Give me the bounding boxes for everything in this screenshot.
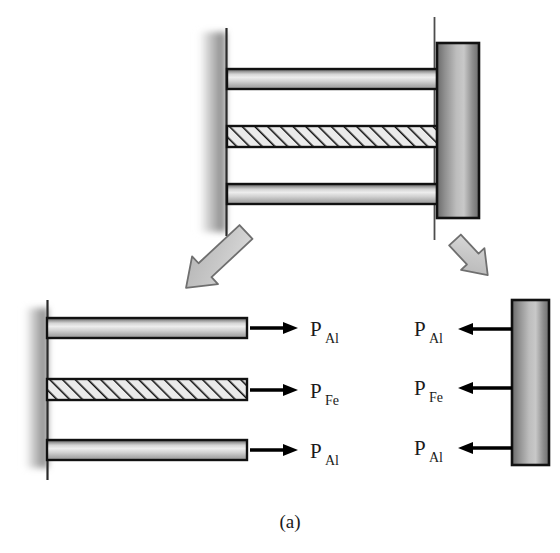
support-shadow <box>196 32 226 232</box>
bar-top-body <box>227 69 439 89</box>
fb-plate-force-subscript-bottom: Al <box>429 450 443 465</box>
figure-caption: (a) <box>279 511 300 533</box>
fb-bar-bottom-body <box>47 440 247 460</box>
fb-plate-force-label-top: P <box>414 317 426 341</box>
bar-bottom-body <box>227 184 439 204</box>
fb-fixed-support <box>22 300 48 480</box>
fb-force-subscript-top: Al <box>325 331 339 346</box>
bar-middle-body <box>227 126 439 147</box>
figure-container: P Al P Fe P Al P Al <box>0 0 560 553</box>
fb-plate-force-subscript-top: Al <box>429 331 443 346</box>
fb-plate-force-subscript-middle: Fe <box>429 390 443 405</box>
fb-end-plate <box>512 300 549 465</box>
fb-force-subscript-bottom: Al <box>325 453 339 468</box>
assembly-end-plate <box>437 43 479 218</box>
assembly-bar-bottom <box>227 184 439 204</box>
composite-bar-diagram: P Al P Fe P Al P Al <box>0 0 560 553</box>
assembly-bar-middle <box>227 126 439 147</box>
fb-plate-force-label-bottom: P <box>414 436 426 460</box>
fb-force-subscript-middle: Fe <box>325 393 339 408</box>
fb-bar-top-body <box>47 318 247 338</box>
fb-force-label-bottom: P <box>310 439 322 463</box>
fb-support-shadow <box>22 308 48 468</box>
fb-bar-middle-body <box>47 379 247 400</box>
fb-force-label-middle: P <box>310 379 322 403</box>
fb-force-label-top: P <box>310 317 322 341</box>
assembly-bar-top <box>227 69 439 89</box>
assembly-fixed-support <box>196 28 227 236</box>
fb-plate-force-label-middle: P <box>414 376 426 400</box>
